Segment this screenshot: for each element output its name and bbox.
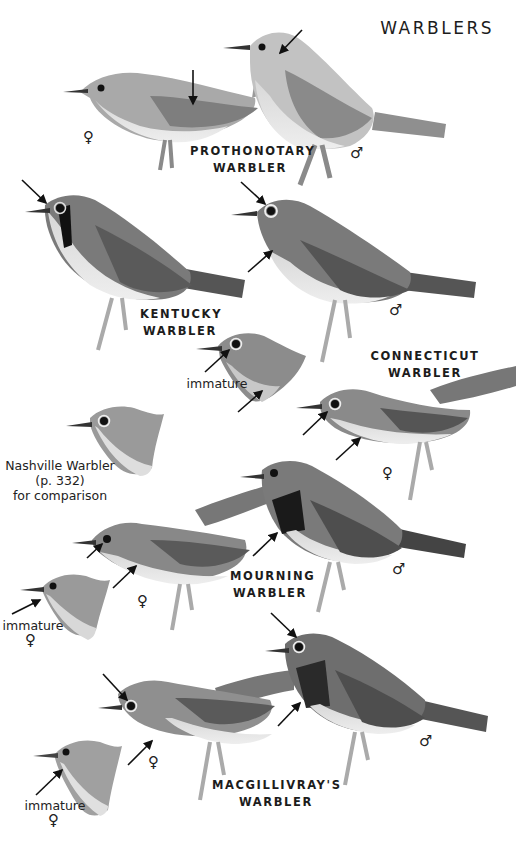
- nashville-comparison-note: Nashville Warbler (p. 332) for compariso…: [0, 458, 120, 503]
- female-symbol: ♀: [148, 755, 159, 770]
- female-symbol: ♀: [25, 633, 36, 648]
- species-label-line: KENTUCKY: [140, 306, 220, 323]
- female-symbol: ♀: [137, 594, 148, 609]
- species-label-line: WARBLER: [190, 160, 310, 177]
- note-line: for comparison: [0, 488, 120, 503]
- female-symbol: ♀: [83, 130, 94, 145]
- male-symbol: ♂: [419, 734, 432, 749]
- field-guide-plate: WARBLERS: [0, 0, 516, 863]
- species-label-line: MACGILLIVRAY'S: [212, 777, 340, 794]
- species-label-line: WARBLER: [140, 323, 220, 340]
- note-line: Nashville Warbler: [0, 458, 120, 473]
- species-label-macgillivrays: MACGILLIVRAY'S WARBLER: [212, 777, 340, 811]
- mourning-female-bird: [72, 484, 272, 630]
- species-label-line: WARBLER: [370, 365, 480, 382]
- connecticut-immature-bird: [196, 333, 306, 402]
- species-label-line: WARBLER: [230, 585, 310, 602]
- species-label-prothonotary: PROTHONOTARY WARBLER: [190, 143, 310, 177]
- connecticut-male-bird: [231, 200, 476, 362]
- male-symbol: ♂: [389, 303, 402, 318]
- female-symbol: ♀: [382, 466, 393, 481]
- note-line: (p. 332): [0, 473, 120, 488]
- species-label-line: CONNECTICUT: [370, 348, 480, 365]
- female-symbol: ♀: [48, 813, 59, 828]
- male-symbol: ♂: [392, 562, 405, 577]
- species-label-mourning: MOURNING WARBLER: [230, 568, 310, 602]
- species-label-kentucky: KENTUCKY WARBLER: [140, 306, 220, 340]
- bird-illustrations: [0, 0, 516, 863]
- species-label-line: MOURNING: [230, 568, 310, 585]
- species-label-line: PROTHONOTARY: [190, 143, 310, 160]
- connecticut-immature-note: immature: [182, 376, 252, 391]
- macgillivrays-male-bird: [265, 634, 488, 785]
- male-symbol: ♂: [350, 146, 363, 161]
- species-label-line: WARBLER: [212, 794, 340, 811]
- species-label-connecticut: CONNECTICUT WARBLER: [370, 348, 480, 382]
